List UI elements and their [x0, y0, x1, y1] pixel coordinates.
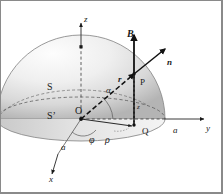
hemisphere-solid	[1, 35, 165, 141]
vector-label-rho: ρ	[105, 135, 110, 145]
vector-label-r: r	[118, 75, 122, 84]
surface-label-S: S	[47, 82, 53, 92]
figure-frame: z y x B n r ρ O P Q S S’ α φ z a a	[0, 0, 223, 194]
base-disk-front	[1, 119, 165, 141]
point-label-O: O	[75, 106, 82, 116]
axis-label-x: x	[49, 175, 53, 184]
surface-label-S-prime: S’	[47, 111, 56, 121]
point-label-Q: Q	[142, 127, 149, 136]
angle-label-phi: φ	[89, 135, 95, 145]
origin-dot	[79, 117, 83, 121]
hemisphere-field-diagram	[1, 1, 222, 192]
x-axis	[52, 154, 58, 174]
radius-label-a-y: a	[173, 126, 178, 135]
axis-label-z: z	[84, 15, 88, 24]
vector-label-B: B	[127, 29, 134, 39]
angle-label-alpha: α	[106, 86, 111, 95]
axis-label-y: y	[206, 124, 210, 133]
radius-label-a-x: a	[61, 143, 66, 152]
point-p-dot	[132, 72, 135, 75]
vector-label-n: n	[167, 58, 172, 67]
point-label-P: P	[140, 78, 145, 87]
point-q-dot	[132, 123, 135, 126]
height-label-z: z	[137, 104, 140, 111]
z-axis-dome-dot	[79, 45, 82, 48]
